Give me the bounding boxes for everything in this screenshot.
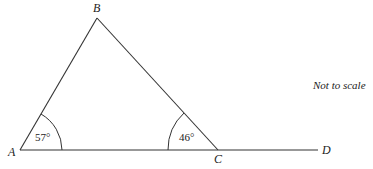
line-bc — [97, 18, 218, 150]
angle-label-c: 46° — [179, 132, 194, 143]
vertex-label-b: B — [93, 2, 100, 14]
line-ab — [20, 18, 97, 150]
angle-label-a: 57° — [35, 132, 50, 143]
vertex-label-d: D — [322, 144, 331, 156]
vertex-label-c: C — [214, 153, 222, 165]
not-to-scale-note: Not to scale — [313, 80, 366, 91]
vertex-label-a: A — [8, 146, 15, 158]
